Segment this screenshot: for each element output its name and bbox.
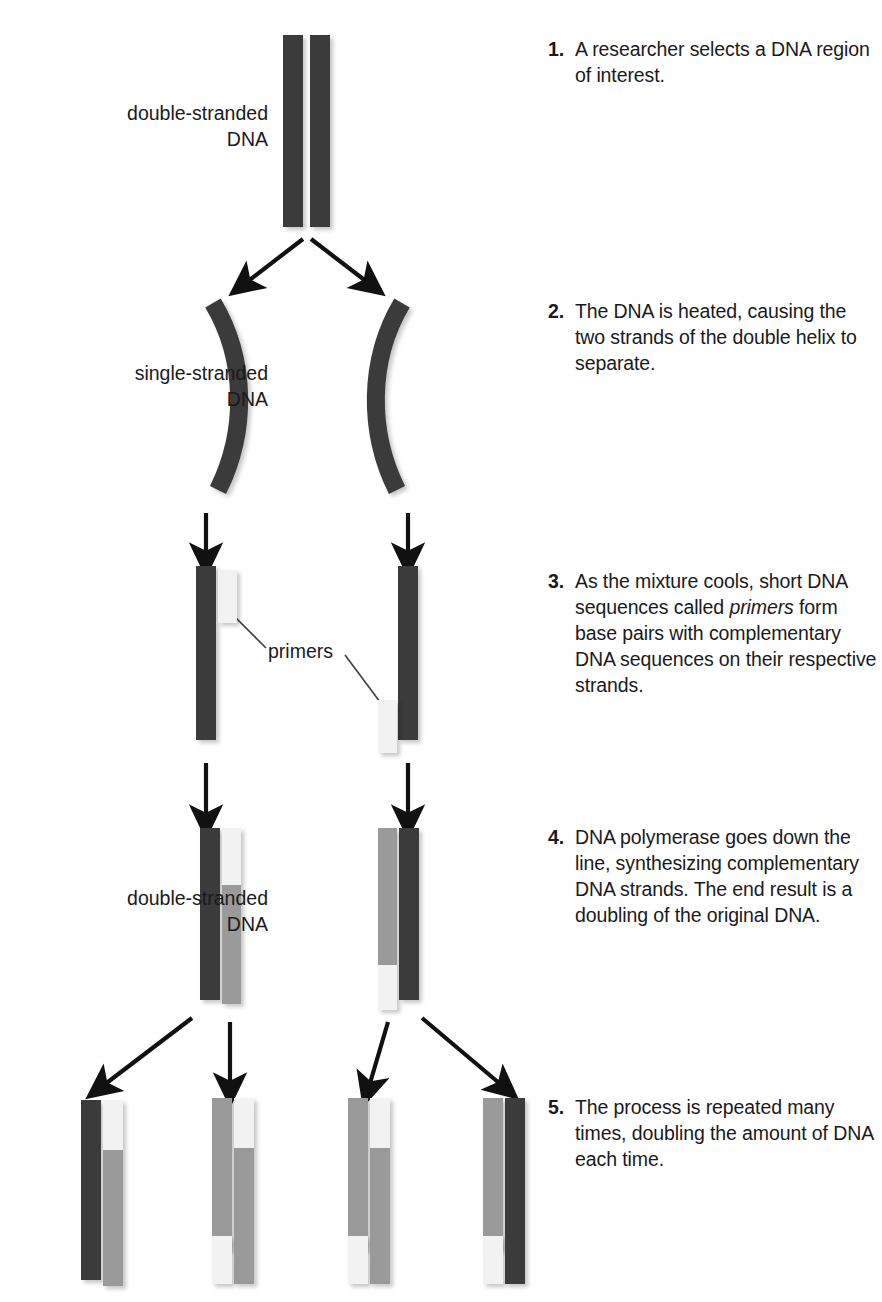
- dna-strand-template-2: [310, 35, 330, 227]
- step-5-text: The process is repeated many times, doub…: [575, 1094, 878, 1172]
- step-2-number: 2.: [548, 298, 575, 324]
- pcr-diagram-figure: double-stranded DNA single-stranded DNA …: [0, 0, 882, 1302]
- dna-strand-new-step5-a: [103, 1150, 123, 1286]
- label-double-stranded-dna-top: double-stranded DNA: [38, 100, 268, 152]
- dna-strand-new-step5-c-right: [370, 1148, 390, 1284]
- primer-step5-b-top: [234, 1098, 254, 1148]
- label-single-stranded-dna: single-stranded DNA: [38, 360, 268, 412]
- step-4-text: DNA polymerase goes down the line, synth…: [575, 824, 878, 928]
- step-1: 1. A researcher selects a DNA region of …: [548, 36, 878, 88]
- label-line-1: double-stranded: [38, 885, 268, 911]
- step-3: 3. As the mixture cools, short DNA seque…: [548, 568, 878, 698]
- label-primers: primers: [268, 640, 333, 662]
- dna-strand-template-1: [283, 35, 303, 227]
- step-3-number: 3.: [548, 568, 575, 594]
- label-line-2: DNA: [38, 126, 268, 152]
- dna-strand-template-left-step3: [196, 566, 216, 740]
- label-line-2: DNA: [38, 911, 268, 937]
- primer-left-step4: [222, 828, 241, 885]
- label-double-stranded-dna-bottom: double-stranded DNA: [38, 885, 268, 937]
- arrow-step3-to-step4: [206, 763, 408, 822]
- label-line-1: double-stranded: [38, 100, 268, 126]
- single-strand-right: [376, 303, 402, 490]
- primers-leader-lines: [232, 614, 392, 718]
- dna-strand-template-step5-d: [505, 1098, 525, 1284]
- dna-strand-template-right-step3: [398, 566, 418, 740]
- primer-step5-a: [103, 1100, 123, 1150]
- dna-strand-template-right-step4: [399, 828, 419, 1000]
- primer-step5-d: [483, 1236, 503, 1284]
- arrow-split-step1-to-step2: [243, 239, 371, 285]
- dna-strand-new-step5-b-right: [234, 1148, 254, 1284]
- step-2: 2. The DNA is heated, causing the two st…: [548, 298, 878, 376]
- step-1-number: 1.: [548, 36, 575, 62]
- dna-strand-new-step5-d: [483, 1098, 503, 1250]
- step-3-text: As the mixture cools, short DNA sequence…: [575, 568, 878, 698]
- step-4-number: 4.: [548, 824, 575, 850]
- label-line-2: DNA: [38, 386, 268, 412]
- dna-strand-new-step5-b-left: [212, 1098, 232, 1250]
- label-line-1: single-stranded: [38, 360, 268, 386]
- arrow-split-step4-to-step5: [100, 1018, 505, 1090]
- step-1-text: A researcher selects a DNA region of int…: [575, 36, 878, 88]
- primer-step5-c: [348, 1236, 368, 1284]
- step-2-text: The DNA is heated, causing the two stran…: [575, 298, 878, 376]
- step-5: 5. The process is repeated many times, d…: [548, 1094, 878, 1172]
- step-3-emphasis: primers: [729, 596, 793, 618]
- dna-strand-template-step5-a: [81, 1100, 101, 1280]
- primer-step5-c-top: [370, 1098, 390, 1148]
- arrow-step2-to-step3: [206, 513, 408, 560]
- primer-right-step3: [378, 700, 397, 753]
- step-5-number: 5.: [548, 1094, 575, 1120]
- step-4: 4. DNA polymerase goes down the line, sy…: [548, 824, 878, 928]
- dna-strand-new-right-step4: [378, 828, 397, 965]
- primer-right-step4: [378, 965, 397, 1010]
- primer-left-step3: [218, 570, 237, 623]
- primer-step5-b: [212, 1236, 232, 1284]
- dna-strand-new-step5-c-left: [348, 1098, 368, 1250]
